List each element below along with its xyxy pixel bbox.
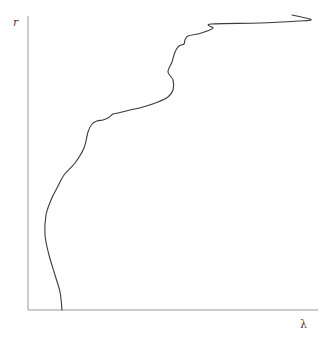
y-axis-label: r	[13, 16, 18, 29]
chart-canvas	[0, 0, 332, 340]
x-axis-label: λ	[300, 318, 307, 331]
data-curve	[45, 15, 311, 310]
